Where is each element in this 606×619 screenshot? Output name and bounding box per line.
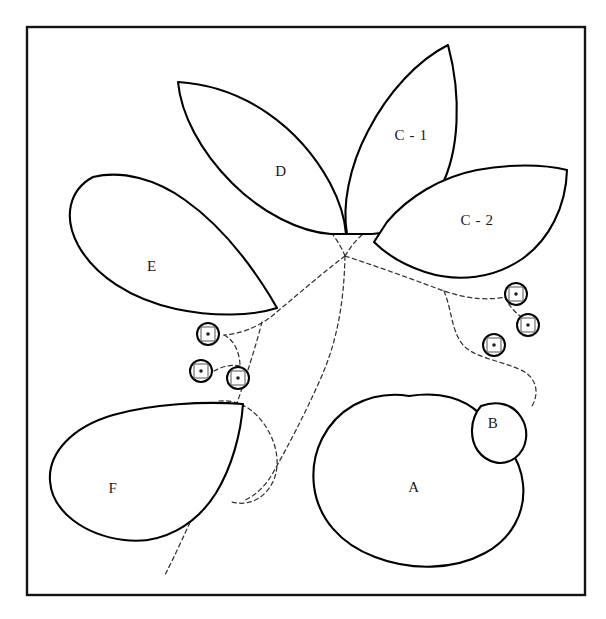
marker-group-right	[483, 283, 539, 356]
region-label-b: B	[488, 415, 499, 431]
region-label-f: F	[109, 480, 118, 496]
leaf-region-diagram: A B C - 1 C - 2 D E F	[0, 0, 606, 619]
marker-group-left	[190, 323, 249, 389]
figure-canvas: A B C - 1 C - 2 D E F	[0, 0, 606, 619]
region-outline-d[interactable]	[178, 82, 346, 234]
marker-right-3[interactable]	[483, 334, 505, 356]
region-label-c1: C - 1	[395, 127, 428, 143]
marker-right-1[interactable]	[505, 283, 527, 305]
connector-hub-to-d	[331, 232, 345, 256]
region-outline-f[interactable]	[50, 403, 243, 541]
region-outline-b[interactable]	[472, 403, 526, 463]
connector-left-cluster-link	[224, 335, 240, 366]
marker-right-2[interactable]	[517, 314, 539, 336]
region-label-e: E	[147, 258, 157, 274]
region-label-d: D	[275, 163, 286, 179]
marker-left-3[interactable]	[227, 367, 249, 389]
region-label-a: A	[408, 479, 419, 495]
region-label-c2: C - 2	[461, 212, 494, 228]
marker-left-1[interactable]	[197, 323, 219, 345]
marker-left-2[interactable]	[190, 360, 212, 382]
